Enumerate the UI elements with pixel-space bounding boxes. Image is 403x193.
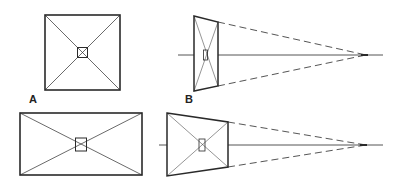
label-b: B xyxy=(185,93,193,105)
perspective-diagram xyxy=(0,0,403,193)
label-a: A xyxy=(29,93,37,105)
rectangle-perspective-view xyxy=(159,113,383,176)
square-frontal-view xyxy=(45,15,120,90)
square-perspective-view xyxy=(178,16,383,91)
rectangle-frontal-view xyxy=(20,113,142,175)
